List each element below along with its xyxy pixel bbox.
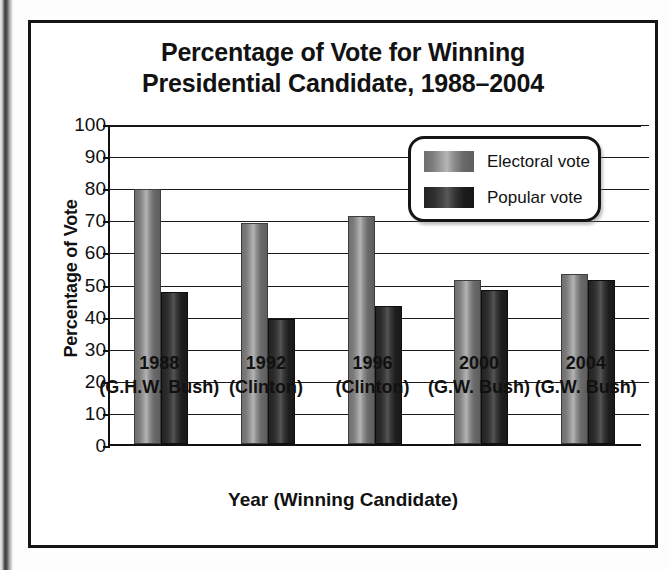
x-category-2004: 2004(G.W. Bush) [526, 351, 646, 399]
x-category-1996: 1996(Clinton) [313, 351, 433, 399]
chart-title: Percentage of Vote for Winning President… [31, 37, 655, 99]
y-tick-right-60 [641, 253, 649, 254]
scan-gutter-shadow [0, 0, 13, 570]
y-tick-label-100: 100 [46, 114, 106, 136]
bar-electoral-1992 [241, 223, 268, 444]
x-category-year-1988: 1988 [99, 351, 219, 375]
x-category-candidate-1992: (Clinton) [206, 375, 326, 399]
y-tick-label-40: 40 [46, 307, 106, 329]
y-tick-right-50 [641, 286, 649, 287]
y-tick-right-80 [641, 189, 649, 190]
y-tick-label-10: 10 [46, 403, 106, 425]
y-tick-label-70: 70 [46, 210, 106, 232]
x-category-year-1992: 1992 [206, 351, 326, 375]
x-category-2000: 2000(G.W. Bush) [419, 351, 539, 399]
legend-item-popular-vote: Popular vote [424, 187, 582, 208]
legend-label-electoral-vote: Electoral vote [487, 152, 590, 172]
chart-title-line-2: Presidential Candidate, 1988–2004 [31, 68, 655, 99]
y-tick-label-20: 20 [46, 371, 106, 393]
legend-swatch-popular-vote [424, 187, 474, 208]
y-tick-label-30: 30 [46, 339, 106, 361]
legend-item-electoral-vote: Electoral vote [424, 151, 590, 172]
legend-swatch-electoral-vote [424, 151, 474, 172]
y-tick-label-90: 90 [46, 146, 106, 168]
x-category-1992: 1992(Clinton) [206, 351, 326, 399]
y-tick-right-90 [641, 157, 649, 158]
x-category-candidate-1996: (Clinton) [313, 375, 433, 399]
y-tick-label-80: 80 [46, 178, 106, 200]
chart-legend: Electoral vote Popular vote [408, 136, 601, 222]
y-tick-right-100 [641, 125, 649, 126]
legend-label-popular-vote: Popular vote [487, 188, 582, 208]
x-category-candidate-2000: (G.W. Bush) [419, 375, 539, 399]
figure-frame: Percentage of Vote for Winning President… [28, 20, 658, 548]
x-category-candidate-1988: (G.H.W. Bush) [99, 375, 219, 399]
y-tick-label-50: 50 [46, 275, 106, 297]
x-category-year-2000: 2000 [419, 351, 539, 375]
y-tick-label-60: 60 [46, 242, 106, 264]
chart-title-line-1: Percentage of Vote for Winning [31, 37, 655, 68]
bar-electoral-1996 [348, 216, 375, 444]
x-category-candidate-2004: (G.W. Bush) [526, 375, 646, 399]
y-tick-label-0: 0 [46, 435, 106, 457]
bar-electoral-1988 [134, 189, 161, 444]
x-axis-title: Year (Winning Candidate) [31, 489, 655, 511]
x-category-year-1996: 1996 [313, 351, 433, 375]
y-tick-right-40 [641, 318, 649, 319]
y-tick-right-70 [641, 221, 649, 222]
x-category-1988: 1988(G.H.W. Bush) [99, 351, 219, 399]
y-tick-right-10 [641, 414, 649, 415]
x-category-year-2004: 2004 [526, 351, 646, 375]
